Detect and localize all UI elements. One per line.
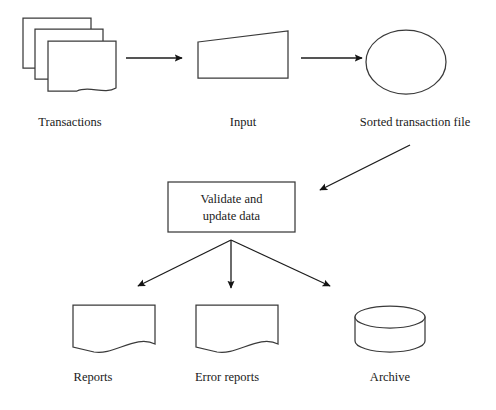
- document-sheet-front-icon: [48, 41, 116, 91]
- node-input[interactable]: Input: [198, 31, 288, 129]
- diagram-canvas: Transactions Input Sorted transaction fi…: [0, 0, 496, 410]
- arrow-validate-to-archive: [231, 240, 330, 286]
- node-transactions[interactable]: Transactions: [23, 18, 116, 129]
- node-sorted-transaction-file[interactable]: Sorted transaction file: [360, 30, 471, 129]
- node-label-archive: Archive: [370, 370, 411, 384]
- document-shape-error-reports-icon: [196, 305, 278, 352]
- arrow-sorted-file-to-validate: [320, 145, 410, 190]
- punched-card-shape-icon: [198, 31, 288, 78]
- node-label-error-reports: Error reports: [195, 370, 259, 384]
- document-shape-reports-icon: [73, 305, 155, 352]
- arrow-validate-to-reports: [138, 240, 231, 286]
- flowchart-diagram: Transactions Input Sorted transaction fi…: [0, 0, 496, 410]
- node-archive[interactable]: Archive: [355, 306, 425, 384]
- process-box-shape-icon: [168, 182, 295, 232]
- circle-shape-icon: [366, 30, 446, 94]
- node-validate-and-update-data[interactable]: Validate and update data: [168, 182, 295, 232]
- cylinder-top-icon: [355, 306, 425, 328]
- node-reports[interactable]: Reports: [73, 305, 155, 384]
- process-box-text-line-2: update data: [203, 209, 261, 223]
- node-label-reports: Reports: [74, 370, 113, 384]
- node-label-sorted-transaction-file: Sorted transaction file: [360, 115, 471, 129]
- process-box-text-line-1: Validate and: [200, 192, 263, 206]
- edge-validate-to-archive: [231, 240, 330, 286]
- edge-sorted-file-to-validate: [320, 145, 410, 190]
- node-label-transactions: Transactions: [38, 115, 102, 129]
- node-error-reports[interactable]: Error reports: [195, 305, 278, 384]
- node-label-input: Input: [230, 115, 257, 129]
- edge-validate-to-reports: [138, 240, 231, 286]
